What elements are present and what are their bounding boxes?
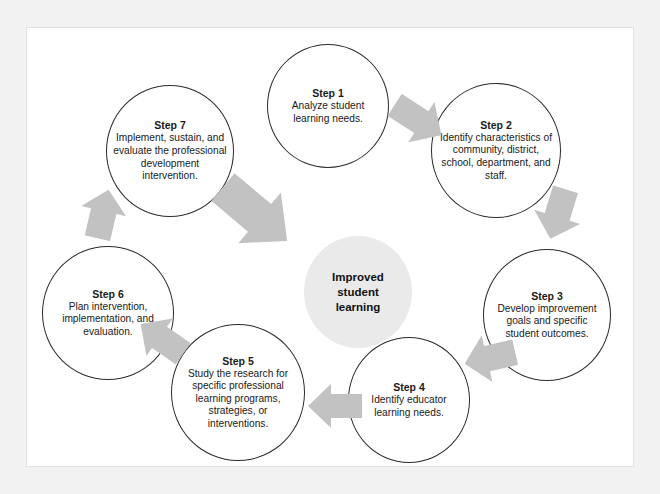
center-line-3: learning: [332, 300, 384, 315]
step-5-title: Step 5: [222, 355, 254, 368]
step-2-body: Identify characteristics of community, d…: [432, 132, 560, 182]
center-node-label: Improved student learning: [332, 270, 384, 315]
diagram-panel: Improved student learning Step 1 Analyze…: [26, 27, 634, 467]
step-4-title: Step 4: [393, 381, 425, 394]
center-line-2: student: [332, 285, 384, 300]
node-step-5[interactable]: Step 5 Study the research for specific p…: [171, 324, 305, 461]
step-1-title: Step 1: [312, 87, 344, 100]
step-3-title: Step 3: [531, 290, 563, 303]
center-node-improved-student-learning: Improved student learning: [304, 236, 412, 348]
step-7-title: Step 7: [154, 119, 186, 132]
center-line-1: Improved: [332, 270, 384, 285]
node-step-4[interactable]: Step 4 Identify educator learning needs.: [348, 337, 470, 463]
step-6-title: Step 6: [92, 288, 124, 301]
step-2-title: Step 2: [480, 119, 512, 132]
step-7-body: Implement, sustain, and evaluate the pro…: [107, 132, 233, 182]
arrow-step6-step7: [74, 184, 132, 244]
step-5-body: Study the research for specific professi…: [172, 368, 304, 431]
node-step-1[interactable]: Step 1 Analyze student learning needs.: [267, 44, 389, 168]
diagram-canvas: Improved student learning Step 1 Analyze…: [0, 0, 660, 494]
step-1-body: Analyze student learning needs.: [268, 100, 388, 125]
arrow-step4-step5: [308, 383, 362, 429]
arrow-step3-step4: [459, 328, 521, 388]
step-4-body: Identify educator learning needs.: [349, 394, 469, 419]
